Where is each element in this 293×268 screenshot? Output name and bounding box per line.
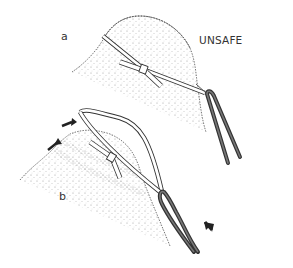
rock-horn-a <box>72 16 206 132</box>
lift-arrow-icon <box>62 118 77 126</box>
unsafe-caption: UNSAFE <box>199 35 242 46</box>
down-arrow-icon <box>204 222 214 232</box>
panel-label-b: b <box>59 191 66 202</box>
panel-label-a: a <box>61 31 68 42</box>
sling-illustration: a UNSAFE b <box>0 0 293 268</box>
rope-a <box>207 91 240 163</box>
illustration-drawing <box>0 0 293 268</box>
